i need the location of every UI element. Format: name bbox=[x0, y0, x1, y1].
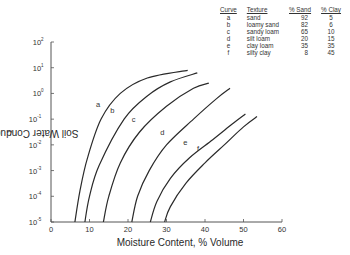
legend-cell-texture: clay loam bbox=[243, 42, 285, 49]
y-tick-label: 102 bbox=[33, 37, 44, 47]
x-tick-label: 10 bbox=[85, 225, 93, 234]
legend-header-texture: Texture bbox=[243, 6, 285, 14]
legend-cell-texture: silty clay bbox=[243, 49, 285, 56]
y-axis-label: Soil Water Conductivity, cm-hr-1 bbox=[2, 40, 22, 225]
legend-cell-texture: loamy sand bbox=[243, 21, 285, 28]
legend-row: fsilty clay845 bbox=[216, 49, 347, 56]
x-tick-label: 20 bbox=[124, 225, 132, 234]
legend-cell-curve: c bbox=[216, 28, 243, 35]
y-tick-label: 10-5 bbox=[29, 217, 42, 227]
legend-cell-sand: 8 bbox=[285, 49, 317, 56]
legend-row: csandy loam6510 bbox=[216, 28, 347, 35]
x-tick-label: 0 bbox=[49, 225, 53, 234]
legend-cell-clay: 15 bbox=[317, 35, 347, 42]
curve-a bbox=[75, 70, 188, 222]
legend-cell-sand: 20 bbox=[285, 35, 317, 42]
legend-header-sand: % Sand bbox=[285, 6, 317, 14]
y-axis-label-text: Soil Water Conductivity, cm-hr bbox=[0, 127, 79, 138]
legend-cell-clay: 6 bbox=[317, 21, 347, 28]
legend-cell-texture: silt loam bbox=[243, 35, 285, 42]
x-tick-label: 60 bbox=[278, 225, 286, 234]
curve-label-a: a bbox=[96, 100, 101, 109]
legend-cell-clay: 5 bbox=[317, 14, 347, 21]
legend-cell-sand: 82 bbox=[285, 21, 317, 28]
curve-label-d: d bbox=[160, 128, 164, 137]
x-tick-label: 40 bbox=[201, 225, 209, 234]
y-tick-label: 100 bbox=[33, 88, 44, 98]
legend-rows: asand925bloamy sand826csandy loam6510dsi… bbox=[216, 14, 347, 56]
x-tick-label: 50 bbox=[239, 225, 247, 234]
legend-cell-curve: b bbox=[216, 21, 243, 28]
legend-row: bloamy sand826 bbox=[216, 21, 347, 28]
curve-e bbox=[150, 114, 245, 222]
curve-label-f: f bbox=[197, 144, 200, 153]
legend-cell-curve: e bbox=[216, 42, 243, 49]
curve-d bbox=[132, 88, 230, 222]
legend-cell-sand: 65 bbox=[285, 28, 317, 35]
legend-cell-sand: 35 bbox=[285, 42, 317, 49]
y-tick-label: 10-4 bbox=[29, 191, 42, 201]
legend-cell-texture: sandy loam bbox=[243, 28, 285, 35]
legend-cell-curve: d bbox=[216, 35, 243, 42]
y-tick-label: 10-3 bbox=[29, 166, 42, 176]
legend-cell-sand: 92 bbox=[285, 14, 317, 21]
legend-header-clay: % Clay bbox=[317, 6, 347, 14]
legend-cell-clay: 35 bbox=[317, 42, 347, 49]
legend-cell-curve: f bbox=[216, 49, 243, 56]
x-axis-label: Moisture Content, % Volume bbox=[0, 237, 350, 248]
legend-table: Curve Texture % Sand % Clay asand925bloa… bbox=[216, 6, 347, 56]
curve-label-b: b bbox=[110, 106, 114, 115]
x-tick-label: 30 bbox=[162, 225, 170, 234]
legend-header-curve: Curve bbox=[216, 6, 243, 14]
curve-c bbox=[103, 83, 208, 222]
curve-label-e: e bbox=[183, 138, 187, 147]
y-tick-label: 101 bbox=[33, 63, 44, 73]
legend-row: asand925 bbox=[216, 14, 347, 21]
legend-row: eclay loam3535 bbox=[216, 42, 347, 49]
legend-cell-curve: a bbox=[216, 14, 243, 21]
legend-row: dsilt loam2015 bbox=[216, 35, 347, 42]
y-tick-label: 10-1 bbox=[29, 114, 42, 124]
y-tick-label: 10-2 bbox=[29, 140, 42, 150]
curve-label-c: c bbox=[132, 115, 136, 124]
legend-cell-texture: sand bbox=[243, 14, 285, 21]
curve-b bbox=[85, 73, 197, 222]
legend-cell-clay: 10 bbox=[317, 28, 347, 35]
legend-cell-clay: 45 bbox=[317, 49, 347, 56]
